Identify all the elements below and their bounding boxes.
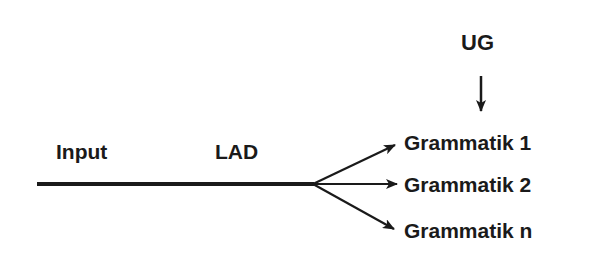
diagram-lines xyxy=(0,0,606,254)
grammatik-1-label: Grammatik 1 xyxy=(404,132,531,153)
language-acquisition-diagram: UG Input LAD Grammatik 1 Grammatik 2 Gra… xyxy=(0,0,606,254)
arrow-to-grammatik-1 xyxy=(313,145,395,184)
grammatik-n-label: Grammatik n xyxy=(404,220,532,241)
grammatik-2-label: Grammatik 2 xyxy=(404,174,531,195)
lad-label: LAD xyxy=(215,141,258,162)
arrow-to-grammatik-n xyxy=(313,184,394,229)
ug-label: UG xyxy=(461,32,494,54)
input-label: Input xyxy=(56,141,107,162)
